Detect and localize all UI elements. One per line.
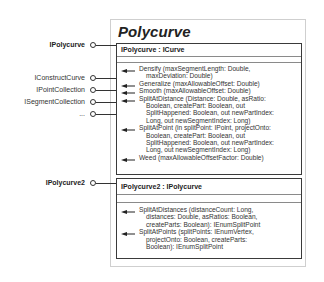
method-item: Densify (maxSegmentLength: Double,maxDev…: [117, 65, 301, 80]
method-arrow-icon: [121, 156, 135, 160]
interface-connector: [96, 45, 116, 46]
method-signature-continued: Boolean, createPart: Boolean, out: [139, 132, 301, 139]
interface-lollipop: IConstructCurve: [0, 73, 85, 83]
method-signature: SplitAtPoint (in splitPoint: IPoint, pro…: [139, 124, 271, 131]
interface-connector: [96, 78, 116, 79]
method-signature-continued: projectOnto: Boolean, createParts:: [139, 236, 301, 243]
method-arrow-icon: [121, 97, 135, 101]
interface-lollipop: IPolycurve2: [0, 178, 85, 188]
method-signature: Smooth (maxAllowableOffset: Double): [139, 87, 251, 94]
method-signature: SplitAtPoints (splitPoints: IEnumVertex,: [139, 228, 254, 235]
method-signature-continued: SplitHappened: Boolean, out newPartIndex…: [139, 109, 301, 116]
interface-label: IPolycurve: [50, 40, 85, 50]
interface-label: IConstructCurve: [34, 73, 85, 83]
method-arrow-icon: [121, 89, 135, 93]
interface-label: IPointCollection: [36, 85, 85, 95]
method-item: SplitAtPoints (splitPoints: IEnumVertex,…: [117, 228, 301, 250]
method-signature: SplitAtDistances (distanceCount: Long,: [139, 206, 253, 213]
method-arrow-icon: [121, 82, 135, 86]
method-signature: SplitAtDistance (Distance: Double, asRat…: [139, 95, 266, 102]
class-title: Polycurve: [118, 23, 191, 40]
method-item: SplitAtDistances (distanceCount: Long,di…: [117, 206, 301, 228]
method-signature: Densify (maxSegmentLength: Double,: [139, 65, 250, 72]
interface-connector: [96, 183, 116, 184]
method-signature-continued: Long, out newSegmentIndex: Long): [139, 117, 301, 124]
method-arrow-icon: [121, 208, 135, 212]
interface-connector: [96, 114, 116, 115]
method-signature-continued: Boolean): IEnumSplitPoint: [139, 243, 301, 250]
methods-section: Densify (maxSegmentLength: Double,maxDev…: [117, 63, 301, 163]
method-signature-continued: distances: Double, asRatios: Boolean,: [139, 213, 301, 220]
method-item: Generalize (maxAllowableOffset: Double): [117, 80, 301, 87]
interface-lollipop: ISegmentCollection: [0, 97, 85, 107]
method-item: SplitAtPoint (in splitPoint: IPoint, pro…: [117, 124, 301, 154]
method-item: Weed (maxAllowableOffsetFactor: Double): [117, 154, 301, 161]
method-item: SplitAtDistance (Distance: Double, asRat…: [117, 95, 301, 125]
method-arrow-icon: [121, 230, 135, 234]
method-arrow-icon: [121, 67, 135, 71]
interface-label: IPolycurve2: [46, 178, 85, 188]
interface-connector: [96, 90, 116, 91]
method-signature-continued: maxDeviation: Double): [139, 72, 301, 79]
interface-label: ...: [79, 109, 85, 119]
method-signature-continued: Long, out newSegmentIndex: Long): [139, 146, 301, 153]
method-arrow-icon: [121, 126, 135, 130]
method-signature: Generalize (maxAllowableOffset: Double): [139, 80, 260, 87]
interface-lollipop: IPolycurve: [0, 40, 85, 50]
method-signature: Weed (maxAllowableOffsetFactor: Double): [139, 154, 264, 161]
method-signature-continued: Boolean, createPart: Boolean, out: [139, 102, 301, 109]
interface-connector: [96, 102, 116, 103]
interface-box-ipolycurve: IPolycurve : ICurve Densify (maxSegmentL…: [116, 43, 302, 175]
method-signature-continued: createParts: Boolean): IEnumSplitPoint: [139, 221, 301, 228]
interface-lollipop: IPointCollection: [0, 85, 85, 95]
interface-header: IPolycurve2 : IPolycurve: [117, 179, 301, 195]
properties-section: [117, 195, 301, 203]
method-item: Smooth (maxAllowableOffset: Double): [117, 87, 301, 94]
interface-box-ipolycurve2: IPolycurve2 : IPolycurve SplitAtDistance…: [116, 178, 302, 259]
interface-lollipop: ...: [0, 109, 85, 119]
methods-section: SplitAtDistances (distanceCount: Long,di…: [117, 203, 301, 252]
interface-label: ISegmentCollection: [24, 97, 85, 107]
interface-header: IPolycurve : ICurve: [117, 44, 301, 57]
method-signature-continued: SplitHappened: Boolean, out newPartIndex…: [139, 139, 301, 146]
